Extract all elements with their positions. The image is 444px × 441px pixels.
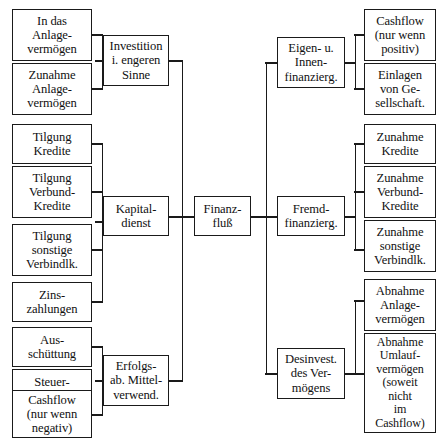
box-cashflow-positiv: Cashflow (nur wenn positiv) bbox=[364, 9, 436, 61]
box-erfolgsabh-mittelverwendung: Erfolgs- ab. Mittel- verwend. bbox=[103, 355, 169, 406]
box-fremdfinanzierung: Fremd- finanzierg. bbox=[277, 196, 345, 236]
connector-left-main-trunk bbox=[182, 60, 184, 381]
box-tilgung-kredite: Tilgung Kredite bbox=[12, 124, 92, 164]
box-investition: Investition i. engeren Sinne bbox=[103, 35, 169, 86]
box-einlagen-gesellschafter: Einlagen von Ge- sellschaft. bbox=[364, 63, 436, 115]
connector-r1-trunk bbox=[355, 34, 357, 90]
box-in-das-anlagevermoegen: In das Anlage- vermögen bbox=[12, 9, 92, 61]
connector-right-main-trunk bbox=[266, 62, 268, 374]
box-abnahme-anlagevermoegen: Abnahme Anlage- vermögen bbox=[364, 279, 436, 331]
box-tilgung-verbund-kredite: Tilgung Verbund- Kredite bbox=[12, 166, 92, 218]
connector-r2-trunk bbox=[355, 143, 357, 249]
box-kapitaldienst: Kapital- dienst bbox=[103, 196, 169, 236]
box-zunahme-anlagevermoegen: Zunahme Anlage- vermögen bbox=[12, 63, 92, 115]
box-desinvestition-vermoegen: Desinvest. des Ver- mögens bbox=[277, 348, 345, 399]
box-ausschuettung: Aus- schüttung bbox=[12, 327, 92, 367]
box-zinszahlungen: Zins- zahlungen bbox=[12, 282, 92, 322]
box-cashflow-negativ: Cashflow (nur wenn negativ) bbox=[12, 390, 92, 438]
connector-r3-trunk bbox=[355, 300, 357, 374]
box-zunahme-verbund-kredite: Zunahme Verbund- Kredite bbox=[364, 166, 436, 218]
box-abnahme-umlaufvermoegen: Abnahme Umlauf- vermögen (soweit nicht i… bbox=[364, 333, 436, 433]
flow-diagram: In das Anlage- vermögen Zunahme Anlage- … bbox=[0, 0, 444, 441]
box-eigen-innenfinanzierung: Eigen- u. Innen- finanzierg. bbox=[277, 37, 345, 88]
box-tilgung-sonstige-verbindlk: Tilgung sonstige Verbindlk. bbox=[12, 224, 92, 276]
box-zunahme-kredite: Zunahme Kredite bbox=[364, 124, 436, 164]
box-finanzfluss: Finanz- fluß bbox=[194, 196, 251, 236]
box-zunahme-sonstige-verbindlk: Zunahme sonstige Verbindlk. bbox=[364, 220, 436, 272]
